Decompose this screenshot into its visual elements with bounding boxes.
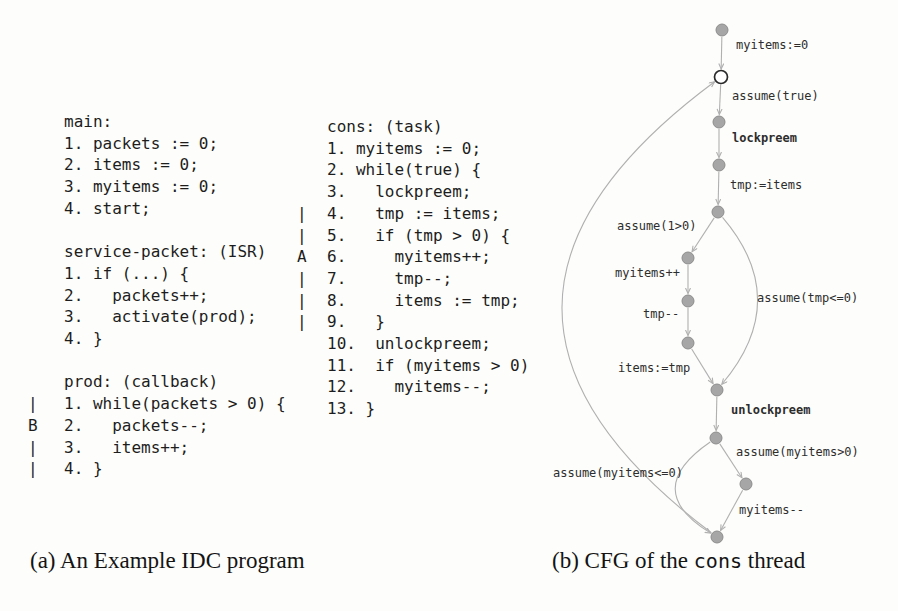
cfg-edge-label: myitems++	[615, 266, 680, 280]
caption-b-suffix: thread	[742, 548, 805, 573]
cfg-node	[713, 159, 725, 171]
cfg-edge-label: lockpreem	[732, 131, 797, 145]
cfg-edge	[719, 84, 720, 114]
cfg-edge-label: assume(tmp<=0)	[757, 291, 858, 305]
caption-a: (a) An Example IDC program	[30, 548, 305, 574]
cfg-edge-label: assume(1>0)	[617, 219, 696, 233]
cfg-edge-label: assume(myitems<=0)	[553, 466, 683, 480]
cfg-node	[682, 295, 694, 307]
cfg-node	[713, 116, 725, 128]
cfg-edge-label: assume(true)	[732, 89, 819, 103]
caption-b-prefix: (b) CFG of the	[552, 548, 694, 573]
cfg-edge	[692, 349, 713, 384]
cfg-edge-label: tmp:=items	[730, 178, 802, 192]
cfg-node	[711, 384, 723, 396]
cfg-edge	[721, 37, 722, 69]
cfg-edge-label: tmp--	[643, 307, 679, 321]
cfg-node	[712, 206, 724, 218]
cfg-edge-label: items:=tmp	[618, 361, 690, 375]
cfg-edge-label: myitems:=0	[736, 38, 808, 52]
cfg-edge-label: unlockpreem	[731, 403, 810, 417]
cfg-node	[682, 337, 694, 349]
caption-b: (b) CFG of the cons thread	[552, 548, 805, 574]
cfg-edge	[716, 397, 717, 431]
caption-a-text: (a) An Example IDC program	[30, 548, 305, 573]
cfg-node	[740, 478, 752, 490]
cfg-node-open	[715, 71, 728, 84]
caption-b-cons: cons	[694, 549, 742, 573]
cfg-node	[710, 432, 722, 444]
cfg-edge	[722, 217, 758, 384]
cfg-edge	[675, 442, 710, 533]
cfg-edge-label: assume(myitems>0)	[736, 445, 859, 459]
cfg-edge	[718, 172, 719, 205]
cfg-edge-label: myitems--	[739, 503, 804, 517]
cfg-node	[716, 24, 728, 36]
cfg-node	[682, 252, 694, 264]
cfg-node	[711, 531, 723, 543]
figure-page: main:1. packets := 0;2. items := 0;3. my…	[0, 0, 898, 611]
